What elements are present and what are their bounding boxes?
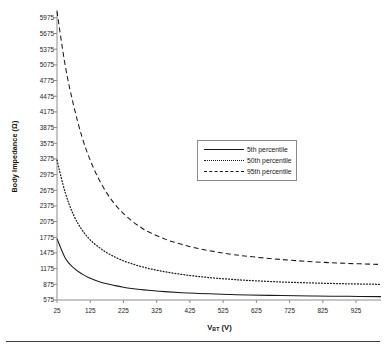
legend-item: 95th percentile — [202, 166, 292, 177]
x-axis-title-unit: (V) — [222, 323, 232, 332]
y-tick-label: 2075 — [18, 218, 54, 225]
x-tick-label: 25 — [53, 307, 60, 314]
legend-rule — [204, 160, 244, 161]
y-tick-label: 3275 — [18, 155, 54, 162]
footer-rule — [6, 341, 380, 342]
y-tick-label: 1775 — [18, 234, 54, 241]
legend-label: 95th percentile — [247, 168, 292, 175]
x-tick-label: 725 — [284, 307, 295, 314]
x-tick-label: 225 — [118, 307, 129, 314]
y-tick-label: 4775 — [18, 77, 54, 84]
y-tick-label: 5675 — [18, 30, 54, 37]
body-impedance-chart-figure: 5758751175147517752075237526752975327535… — [0, 0, 386, 349]
curve-5th-percentile — [57, 239, 381, 297]
legend-rule — [204, 149, 244, 150]
legend-label: 50th percentile — [247, 157, 292, 164]
curve-95th-percentile — [57, 11, 381, 264]
x-tick-label: 925 — [351, 307, 362, 314]
x-tick-label: 525 — [218, 307, 229, 314]
x-tick-label: 825 — [318, 307, 329, 314]
y-tick-label: 5975 — [18, 14, 54, 21]
plot-area — [0, 0, 386, 349]
y-tick-label: 1175 — [18, 265, 54, 272]
y-tick-label: 2675 — [18, 187, 54, 194]
y-axis-title: Body Impedance (Ω) — [10, 97, 19, 217]
legend-line-sample-dashed — [202, 167, 244, 176]
y-tick-label: 5075 — [18, 61, 54, 68]
y-tick-label: 3875 — [18, 124, 54, 131]
x-tick-label: 625 — [251, 307, 262, 314]
y-tick-label: 5375 — [18, 46, 54, 53]
y-tick-label: 3575 — [18, 140, 54, 147]
x-tick-label: 125 — [85, 307, 96, 314]
legend-rule — [204, 171, 244, 172]
x-axis-tick-labels: 25125225325425525625725825925 — [0, 307, 386, 319]
x-axis-title-subscript: BT — [212, 326, 219, 332]
y-tick-label: 1475 — [18, 249, 54, 256]
x-tick-label: 325 — [151, 307, 162, 314]
y-tick-label: 2375 — [18, 202, 54, 209]
y-tick-label: 2975 — [18, 171, 54, 178]
y-tick-label: 4475 — [18, 93, 54, 100]
legend-line-sample-solid — [202, 145, 244, 154]
legend-item: 5th percentile — [202, 144, 292, 155]
y-tick-label: 4175 — [18, 108, 54, 115]
y-tick-label: 575 — [18, 296, 54, 303]
y-tick-label: 875 — [18, 281, 54, 288]
chart-legend: 5th percentile50th percentile95th percen… — [197, 140, 297, 181]
legend-item: 50th percentile — [202, 155, 292, 166]
legend-line-sample-dotted — [202, 156, 244, 165]
x-tick-label: 425 — [185, 307, 196, 314]
x-axis-title: VBT (V) — [57, 323, 382, 332]
legend-label: 5th percentile — [247, 146, 288, 153]
